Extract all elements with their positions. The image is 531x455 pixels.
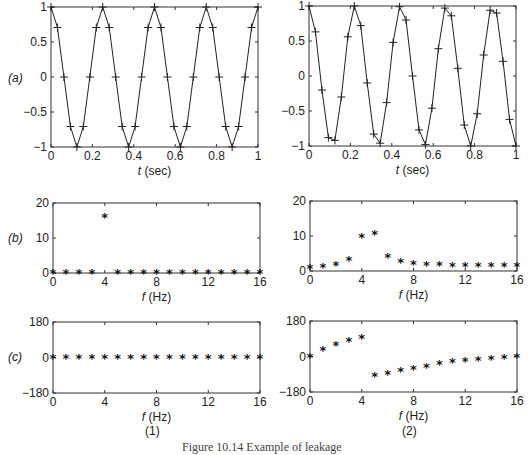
plus-marker (99, 3, 107, 11)
star-marker: * (114, 266, 121, 281)
chart-panel-c2: 0481216−1800180f (Hz)***************** (279, 314, 524, 423)
column-label-2: (2) (402, 424, 417, 438)
y-tick-label: 0 (299, 264, 306, 278)
star-marker: * (397, 364, 404, 379)
x-axis-label: f (Hz) (142, 410, 171, 424)
y-tick-label: 20 (293, 194, 307, 208)
star-marker: * (384, 367, 391, 382)
x-tick-label: 0 (50, 395, 57, 409)
y-tick-label: 10 (36, 231, 50, 245)
y-tick-label: −0.5 (281, 104, 305, 118)
star-marker: * (488, 259, 495, 274)
x-axis-label: f (Hz) (142, 290, 171, 304)
x-tick-label: 16 (253, 395, 267, 409)
x-tick-label: 0.6 (167, 149, 184, 163)
star-marker: * (345, 334, 352, 349)
star-marker: * (257, 351, 264, 366)
star-marker: * (127, 351, 134, 366)
star-marker: * (320, 260, 327, 275)
x-tick-label: 16 (510, 273, 524, 287)
chart-panel-a2: 00.20.40.60.81−1−0.500.51t (sec) (281, 0, 520, 177)
y-tick-label: −1 (291, 139, 305, 153)
star-marker: * (101, 210, 108, 225)
plus-marker (506, 115, 514, 123)
star-marker: * (501, 351, 508, 366)
x-tick-label: 4 (101, 275, 108, 289)
plus-marker (112, 73, 120, 81)
plus-marker (222, 122, 230, 130)
plus-marker (363, 79, 371, 87)
plus-marker (215, 73, 223, 81)
x-axis-label: t (sec) (138, 164, 171, 178)
y-tick-label: 0.5 (30, 35, 47, 49)
star-marker: * (114, 351, 121, 366)
plus-marker (434, 45, 442, 53)
star-marker: * (192, 266, 199, 281)
star-marker: * (371, 369, 378, 384)
plus-marker (60, 73, 68, 81)
star-marker: * (192, 351, 199, 366)
plus-marker (499, 57, 507, 65)
plus-marker (409, 72, 417, 80)
star-marker: * (462, 354, 469, 369)
x-tick-label: 12 (202, 395, 216, 409)
plus-marker (209, 24, 217, 32)
star-marker: * (449, 355, 456, 370)
star-marker: * (63, 266, 70, 281)
plus-marker (311, 28, 319, 36)
plus-marker (163, 73, 171, 81)
plus-marker (305, 2, 313, 10)
star-marker: * (218, 351, 225, 366)
star-marker: * (140, 266, 147, 281)
star-marker: * (423, 360, 430, 375)
chart-panel-b1: 048121601020f (Hz)***************** (36, 196, 267, 304)
star-marker: * (244, 351, 251, 366)
star-marker: * (307, 350, 314, 365)
star-marker: * (179, 266, 186, 281)
plus-marker (337, 93, 345, 101)
star-marker: * (153, 351, 160, 366)
x-tick-label: 4 (358, 394, 365, 408)
x-tick-label: 12 (459, 394, 473, 408)
star-marker: * (410, 257, 417, 272)
star-marker: * (332, 258, 339, 273)
y-tick-label: 0 (299, 350, 306, 364)
x-tick-label: 1 (513, 148, 520, 162)
row-label-a: (a) (8, 71, 23, 85)
plus-marker (396, 3, 404, 11)
x-tick-label: 0.8 (466, 148, 483, 162)
star-marker: * (88, 351, 95, 366)
star-marker: * (75, 266, 82, 281)
y-tick-label: −180 (22, 386, 49, 400)
plus-marker (157, 24, 165, 32)
x-tick-label: 0.8 (208, 149, 225, 163)
plus-marker (118, 122, 126, 130)
chart-panel-c1: 0481216−1800180f (Hz)***************** (22, 315, 267, 424)
plus-marker (144, 24, 152, 32)
star-marker: * (488, 352, 495, 367)
star-marker: * (462, 259, 469, 274)
plus-marker (183, 122, 191, 130)
x-axis-label: f (Hz) (399, 409, 428, 423)
plus-marker (357, 22, 365, 30)
plus-marker (370, 130, 378, 138)
plus-marker (460, 121, 468, 129)
y-tick-label: −0.5 (23, 105, 47, 119)
chart-panel-a1: 00.20.40.60.81−1−0.500.51t (sec) (23, 0, 262, 178)
star-marker: * (475, 353, 482, 368)
star-marker: * (358, 331, 365, 346)
plus-marker (66, 122, 74, 130)
star-marker: * (127, 266, 134, 281)
plus-marker (47, 3, 55, 11)
plot-frame (310, 321, 517, 392)
x-tick-label: 1 (255, 149, 262, 163)
star-marker: * (257, 266, 264, 281)
y-tick-label: 0.5 (288, 34, 305, 48)
plus-marker (73, 143, 81, 151)
y-tick-label: 1 (298, 0, 305, 13)
plus-marker (138, 73, 146, 81)
y-tick-label: 20 (36, 196, 50, 210)
plus-marker (383, 99, 391, 107)
star-marker: * (345, 253, 352, 268)
